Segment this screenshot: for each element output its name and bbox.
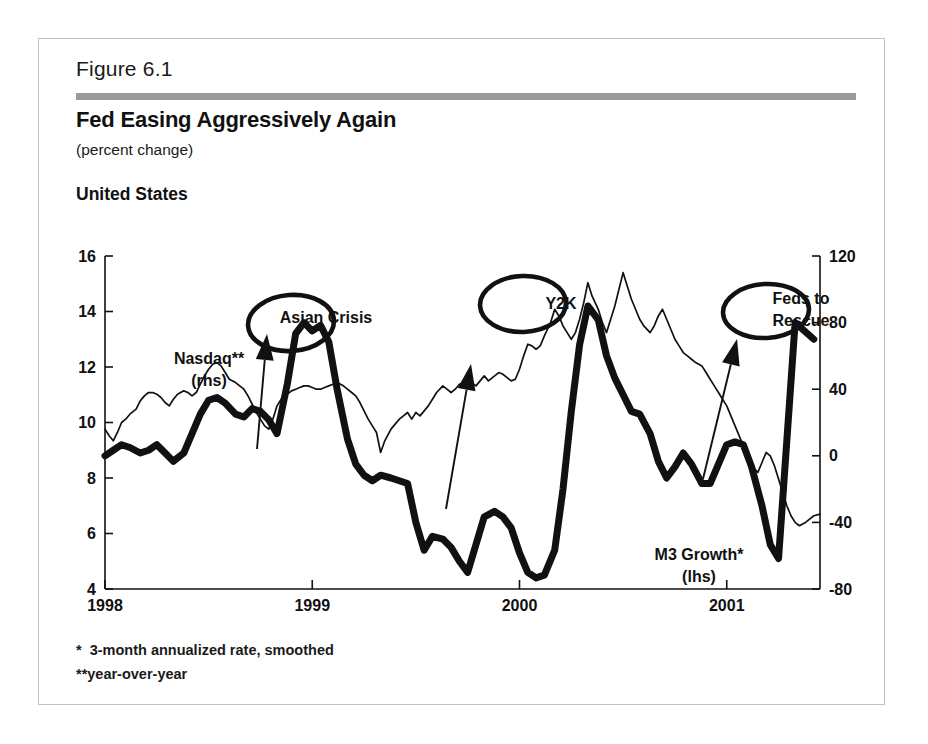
m3-growth-label-line: M3 Growth* [655,546,745,563]
x-axis-tick-label: 1998 [87,597,123,614]
asian-crisis-label: Asian Crisis [280,309,373,326]
footnote-double-asterisk: **year-over-year [76,666,187,682]
y2k-arrow [446,364,475,509]
left-axis-tick-label: 6 [87,525,96,542]
right-axis-tick-label: 80 [829,314,847,331]
feds-to-rescue-label-line: Rescue [773,312,830,329]
right-axis-tick-label: 120 [829,248,856,265]
nasdaq-label-line: (rhs) [191,372,227,389]
right-axis-tick-label: -40 [829,514,852,531]
x-axis-tick-label: 2001 [709,597,745,614]
left-axis-tick-label: 8 [87,470,96,487]
left-axis-tick-label: 4 [87,581,96,598]
asian-crisis-label-line: Asian Crisis [280,309,373,326]
y2k-label-line: Y2K [545,295,577,312]
line-chart: 46810121416-80-4004080120199819992000200… [39,39,886,706]
left-axis-tick-label: 10 [78,414,96,431]
feds-to-rescue-label-line: Feds to [773,290,830,307]
nasdaq-label-line: Nasdaq** [174,350,245,367]
x-axis-tick-label: 1999 [294,597,330,614]
y2k-label: Y2K [545,295,577,312]
left-axis-tick-label: 14 [78,303,96,320]
asian-crisis-arrow [256,334,274,449]
right-axis-tick-label: 0 [829,447,838,464]
left-axis-tick-label: 16 [78,248,96,265]
right-axis-tick-label: 40 [829,381,847,398]
feds-to-rescue-label: Feds toRescue [773,290,830,329]
right-axis-tick-label: -80 [829,581,852,598]
m3-growth-label-line: (lhs) [682,568,716,585]
footnote-asterisk: * 3-month annualized rate, smoothed [76,642,334,658]
left-axis-tick-label: 12 [78,359,96,376]
figure-frame: Figure 6.1 Fed Easing Aggressively Again… [38,38,885,705]
plot-area: 46810121416-80-4004080120199819992000200… [39,39,886,706]
m3-growth-label: M3 Growth*(lhs) [655,546,745,585]
x-axis-tick-label: 2000 [502,597,538,614]
series-line-m3-growth [105,306,814,578]
